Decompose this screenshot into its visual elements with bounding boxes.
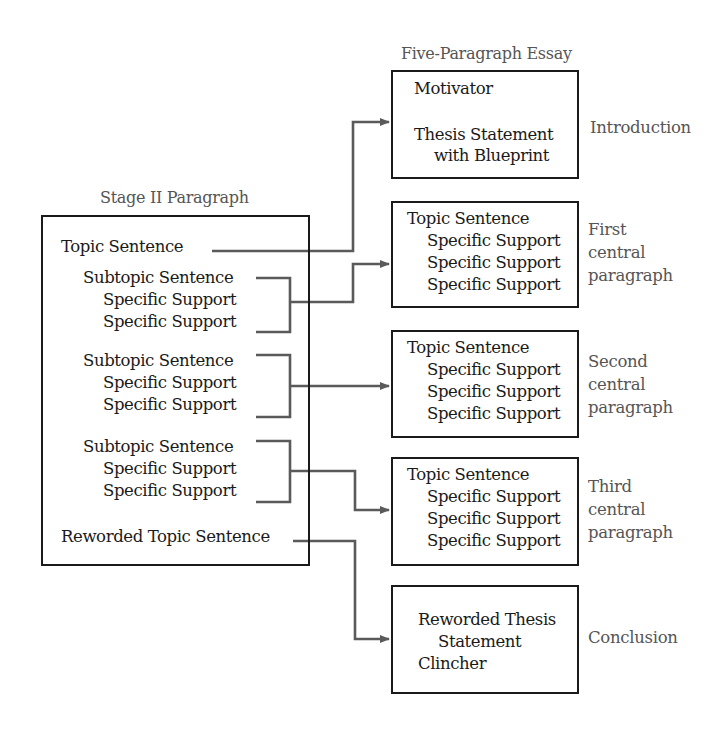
conclusion-clincher: Clincher: [418, 653, 486, 675]
central-support: Specific Support: [427, 403, 560, 425]
central-support: Specific Support: [427, 252, 560, 274]
stage2-support: Specific Support: [103, 311, 236, 333]
central-support: Specific Support: [427, 230, 560, 252]
third-central-label-2: central: [588, 499, 645, 520]
stage2-support: Specific Support: [103, 372, 236, 394]
third-central-label-1: Third: [588, 476, 632, 497]
central-support: Specific Support: [427, 274, 560, 296]
first-central-label-2: central: [588, 242, 645, 263]
stage2-reworded-topic: Reworded Topic Sentence: [61, 526, 270, 548]
stage2-support: Specific Support: [103, 458, 236, 480]
introduction-label: Introduction: [590, 117, 691, 138]
intro-blueprint: with Blueprint: [434, 145, 549, 167]
central-support: Specific Support: [427, 359, 560, 381]
central-support: Specific Support: [427, 486, 560, 508]
stage2-topic-sentence: Topic Sentence: [61, 236, 183, 258]
second-central-label-1: Second: [588, 351, 648, 372]
central-topic: Topic Sentence: [407, 337, 529, 359]
third-central-label-3: paragraph: [588, 522, 673, 543]
essay-title: Five-Paragraph Essay: [401, 44, 572, 63]
central-support: Specific Support: [427, 508, 560, 530]
conclusion-statement: Statement: [438, 631, 521, 653]
stage2-subtopic: Subtopic Sentence: [83, 267, 233, 289]
central-topic: Topic Sentence: [407, 464, 529, 486]
stage2-title: Stage II Paragraph: [100, 188, 249, 207]
stage2-support: Specific Support: [103, 289, 236, 311]
intro-motivator: Motivator: [414, 78, 493, 100]
first-central-label-1: First: [588, 219, 626, 240]
stage2-support: Specific Support: [103, 480, 236, 502]
central-support: Specific Support: [427, 381, 560, 403]
second-central-label-2: central: [588, 374, 645, 395]
stage2-support: Specific Support: [103, 394, 236, 416]
central-support: Specific Support: [427, 530, 560, 552]
second-central-label-3: paragraph: [588, 397, 673, 418]
central-topic: Topic Sentence: [407, 208, 529, 230]
intro-thesis: Thesis Statement: [414, 124, 553, 146]
conclusion-label: Conclusion: [588, 627, 678, 648]
first-central-label-3: paragraph: [588, 265, 673, 286]
stage2-subtopic: Subtopic Sentence: [83, 350, 233, 372]
stage2-subtopic: Subtopic Sentence: [83, 436, 233, 458]
conclusion-reworded-thesis: Reworded Thesis: [418, 609, 556, 631]
